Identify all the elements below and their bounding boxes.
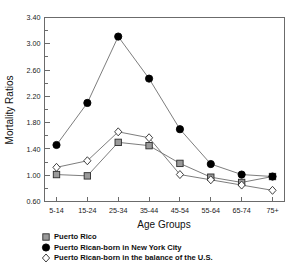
chart-legend: Puerto RicoPuerto Rican-born in New York…	[42, 232, 212, 262]
legend-item: Puerto Rico	[43, 232, 97, 241]
series-layer	[53, 33, 276, 194]
marker-circle-filled	[145, 75, 152, 82]
legend-item: Puerto Rican-born in New York City	[42, 243, 182, 252]
marker-square	[146, 142, 152, 148]
marker-circle-filled	[53, 141, 60, 148]
legend-label: Puerto Rican-born in the balance of the …	[54, 253, 213, 262]
marker-diamond-open	[42, 254, 49, 262]
plot-frame	[45, 18, 285, 202]
marker-circle-filled	[269, 173, 276, 180]
marker-circle-filled	[84, 99, 91, 106]
marker-circle-filled	[238, 171, 245, 178]
y-tick-label: 1.40	[27, 145, 41, 154]
line-chart: 0.601.001.401.802.202.603.003.40 5-1415-…	[0, 0, 304, 267]
x-axis-ticks: 5-1415-2425-3435-4445-5455-6465-7475+	[49, 197, 278, 215]
y-tick-label: 2.20	[27, 92, 41, 101]
marker-circle-filled	[115, 33, 122, 40]
y-tick-label: 3.40	[27, 13, 41, 22]
x-tick-label: 15-24	[78, 206, 96, 215]
legend-label: Puerto Rico	[54, 232, 97, 241]
x-tick-label: 75+	[266, 206, 278, 215]
legend-label: Puerto Rican-born in New York City	[54, 243, 182, 252]
marker-square	[84, 173, 90, 179]
series-markers-3	[53, 128, 276, 194]
x-tick-label: 5-14	[49, 206, 63, 215]
y-axis-title: Mortality Ratios	[4, 76, 15, 145]
marker-diamond-open	[269, 186, 276, 194]
mortality-ratios-figure: 0.601.001.401.802.202.603.003.40 5-1415-…	[0, 0, 304, 267]
y-tick-label: 1.80	[27, 118, 41, 127]
marker-square	[115, 139, 121, 145]
marker-circle-filled	[42, 244, 49, 251]
marker-circle-filled	[207, 160, 214, 167]
y-tick-label: 2.60	[27, 66, 41, 75]
x-tick-label: 45-54	[171, 206, 189, 215]
x-tick-label: 35-44	[140, 206, 158, 215]
x-tick-label: 25-34	[109, 206, 127, 215]
marker-square	[53, 171, 59, 177]
marker-diamond-open	[53, 163, 60, 171]
y-tick-label: 1.00	[27, 171, 41, 180]
y-tick-label: 0.60	[27, 197, 41, 206]
legend-item: Puerto Rican-born in the balance of the …	[42, 253, 212, 262]
x-tick-label: 55-64	[202, 206, 220, 215]
marker-square	[177, 160, 183, 166]
x-tick-label: 65-74	[232, 206, 250, 215]
marker-square	[43, 234, 49, 240]
marker-circle-filled	[176, 126, 183, 133]
x-axis-title: Age Groups	[137, 219, 190, 230]
y-tick-label: 3.00	[27, 39, 41, 48]
